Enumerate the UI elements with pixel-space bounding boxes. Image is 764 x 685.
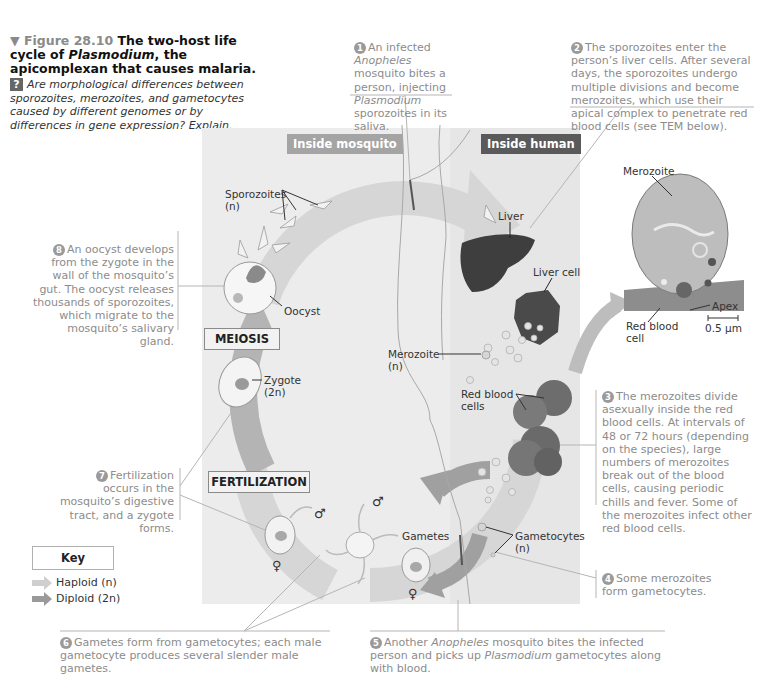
scale-bar-label: 0.5 µm xyxy=(705,322,742,334)
male-gametocyte-icon xyxy=(346,532,374,558)
step-5-annotation: 5Another Anopheles mosquito bites the in… xyxy=(370,636,666,676)
female-symbol: ♀ xyxy=(272,560,282,572)
step-number-badge: 7 xyxy=(96,470,108,482)
scale-bar-icon xyxy=(708,315,738,321)
liver-label: Liver xyxy=(498,210,524,222)
step-1-annotation: 1An infected Anopheles mosquito bites a … xyxy=(354,41,464,133)
merozoite-label: Merozoite(n) xyxy=(388,348,439,372)
step-number-badge: 6 xyxy=(60,637,72,649)
tem-merozoite-label: Merozoite xyxy=(623,165,674,177)
liver-icon xyxy=(460,234,535,292)
female-symbol: ♀ xyxy=(408,588,418,600)
haploid-key-arrow-icon xyxy=(32,576,52,590)
gametes-label: Gametes xyxy=(402,530,449,542)
step-2-annotation: 2The sporozoites enter the person’s live… xyxy=(571,41,757,133)
haploid-arrow-bottom xyxy=(370,440,530,585)
step-8-annotation: 8An oocyst develops from the zygote in t… xyxy=(30,243,174,349)
key-haploid: Haploid (n) xyxy=(56,576,117,590)
tem-apex-label: Apex xyxy=(712,300,738,312)
diploid-key-arrow-icon xyxy=(32,592,52,606)
haploid-arrow-top xyxy=(262,198,490,300)
step-number-badge: 4 xyxy=(602,573,614,585)
tem-micrograph xyxy=(624,174,744,311)
male-symbol: ♂ xyxy=(314,508,326,520)
key-title: Key xyxy=(32,546,114,570)
liver-cell-label: Liver cell xyxy=(533,266,580,278)
gametocyte-icon xyxy=(478,523,486,531)
red-blood-cells-label: Red blood cells xyxy=(461,388,521,412)
step-3-annotation: 3The merozoites divide asexually inside … xyxy=(602,390,752,535)
step-7-annotation: 7Fertilization occurs in the mosquito’s … xyxy=(58,469,174,535)
male-symbol: ♂ xyxy=(372,496,384,508)
step-number-badge: 8 xyxy=(53,244,65,256)
gametocytes-label: Gametocytes(n) xyxy=(515,530,585,554)
fertilization-box: FERTILIZATION xyxy=(208,471,310,493)
oocyst-label: Oocyst xyxy=(284,305,320,317)
meiosis-box: MEIOSIS xyxy=(204,328,280,350)
step-number-badge: 1 xyxy=(354,42,366,54)
key-diploid: Diploid (2n) xyxy=(56,592,120,606)
zygote-label: Zygote(2n) xyxy=(264,374,301,398)
step-number-badge: 2 xyxy=(571,42,583,54)
step-4-annotation: 4Some merozoites form gametocytes. xyxy=(602,572,712,598)
step-number-badge: 3 xyxy=(602,391,614,403)
step-number-badge: 5 xyxy=(370,637,382,649)
tem-red-blood-cell-label: Red blood cell xyxy=(626,320,681,344)
step-6-annotation: 6Gametes form from gametocytes; each mal… xyxy=(60,636,330,676)
sporozoites-label: Sporozoites(n) xyxy=(225,188,286,212)
